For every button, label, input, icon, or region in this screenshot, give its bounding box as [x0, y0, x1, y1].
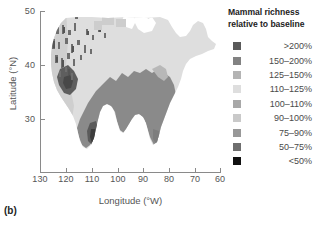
map-regions	[40, 11, 221, 172]
x-tick-90	[143, 168, 144, 172]
x-axis-title: Longitude (°W)	[40, 195, 221, 206]
legend-item-label: 150–200%	[241, 56, 316, 66]
legend-item: 100–110%	[228, 97, 316, 111]
legend-item: >200%	[228, 39, 316, 53]
x-ticklabel-110: 110	[80, 174, 104, 184]
legend-item: 50–75%	[228, 140, 316, 154]
legend-swatch-icon	[233, 143, 241, 151]
legend-item: 150–200%	[228, 53, 316, 67]
legend-swatch-icon	[233, 157, 241, 165]
legend-item-label: 50–75%	[241, 142, 316, 152]
choropleth-map	[40, 11, 221, 172]
x-tick-80	[169, 168, 170, 172]
y-ticklabel-50: 50	[15, 6, 35, 16]
x-tick-100	[118, 168, 119, 172]
legend-item-label: 125–150%	[241, 70, 316, 80]
legend-swatch-icon	[233, 71, 241, 79]
legend-items: >200% 150–200% 125–150% 110–125% 100–110…	[228, 39, 316, 169]
y-ticklabel-30: 30	[15, 114, 35, 124]
legend-item: 90–100%	[228, 111, 316, 125]
legend: Mammal richness relative to baseline >20…	[228, 7, 316, 169]
legend-title-line1: Mammal richness	[228, 7, 316, 19]
legend-item-label: >200%	[241, 41, 316, 51]
legend-swatch-icon	[233, 85, 241, 93]
legend-item-label: 100–110%	[241, 99, 316, 109]
x-tick-70	[195, 168, 196, 172]
legend-item: 75–90%	[228, 125, 316, 139]
map-svg	[40, 11, 221, 172]
y-ticklabel-40: 40	[15, 60, 35, 70]
legend-item-label: 75–90%	[241, 128, 316, 138]
figure-panel-b: 130 120 110 100 90 80 70 60 50 40 30 Lat…	[0, 0, 316, 225]
y-tick-50	[41, 11, 45, 12]
legend-swatch-icon	[233, 129, 241, 137]
legend-item: 110–125%	[228, 82, 316, 96]
x-ticklabel-100: 100	[106, 174, 130, 184]
x-ticklabel-70: 70	[183, 174, 207, 184]
y-axis-title: Latitude (°N)	[7, 49, 18, 119]
legend-title: Mammal richness relative to baseline	[228, 7, 316, 30]
legend-item: 125–150%	[228, 68, 316, 82]
x-ticklabel-120: 120	[54, 174, 78, 184]
x-tick-60	[220, 168, 221, 172]
x-tick-120	[66, 168, 67, 172]
legend-swatch-icon	[233, 57, 241, 65]
legend-item-label: 90–100%	[241, 113, 316, 123]
legend-swatch-icon	[233, 100, 241, 108]
x-ticklabel-90: 90	[131, 174, 155, 184]
panel-label: (b)	[4, 205, 17, 216]
y-axis-line	[40, 11, 41, 172]
x-axis-line	[40, 172, 221, 173]
x-ticklabel-130: 130	[28, 174, 52, 184]
y-tick-30	[41, 119, 45, 120]
x-ticklabel-60: 60	[208, 174, 232, 184]
legend-item-label: <50%	[241, 156, 316, 166]
x-tick-110	[92, 168, 93, 172]
legend-item: <50%	[228, 154, 316, 168]
x-tick-130	[40, 168, 41, 172]
legend-swatch-icon	[233, 114, 241, 122]
x-ticklabel-80: 80	[157, 174, 181, 184]
legend-title-line2: relative to baseline	[228, 19, 316, 31]
legend-swatch-icon	[233, 42, 241, 50]
legend-item-label: 110–125%	[241, 84, 316, 94]
y-tick-40	[41, 65, 45, 66]
